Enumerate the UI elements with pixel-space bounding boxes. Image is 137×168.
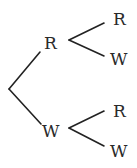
- branch-R-to-R: [69, 23, 104, 40]
- leaf-W-W: W: [110, 141, 128, 161]
- branch-W-to-R: [69, 111, 104, 128]
- node-W: W: [42, 121, 60, 141]
- branch-root-to-W: [9, 89, 41, 124]
- branch-R-to-W: [69, 40, 104, 56]
- branch-W-to-W: [69, 128, 104, 146]
- tree-diagram: R W R W R W: [0, 0, 137, 168]
- leaf-W-R: R: [113, 101, 127, 121]
- leaf-R-R: R: [113, 9, 127, 29]
- branch-root-to-R: [9, 52, 40, 89]
- leaf-R-W: W: [110, 49, 128, 69]
- node-R: R: [44, 33, 58, 53]
